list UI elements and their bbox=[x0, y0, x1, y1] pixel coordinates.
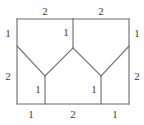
label-center-vertical: 1 bbox=[63, 27, 69, 38]
diagonal-upper-right bbox=[101, 46, 129, 76]
label-top-right: 2 bbox=[98, 6, 104, 17]
label-bottom-right: 1 bbox=[112, 109, 118, 120]
segment-group bbox=[17, 19, 129, 104]
figure-canvas bbox=[0, 0, 144, 125]
label-left-lower: 2 bbox=[5, 71, 11, 82]
diagonal-upper-left bbox=[17, 46, 45, 76]
label-left-upper: 1 bbox=[5, 28, 11, 39]
label-bottom-left: 1 bbox=[28, 109, 34, 120]
label-right-vertical: 1 bbox=[91, 84, 97, 95]
label-right-lower: 2 bbox=[134, 71, 140, 82]
diagonal-inner-left bbox=[45, 48, 73, 76]
diagonal-inner-right bbox=[73, 48, 101, 76]
label-top-left: 2 bbox=[42, 6, 48, 17]
label-bottom-middle: 2 bbox=[70, 109, 76, 120]
label-left-vertical: 1 bbox=[35, 84, 41, 95]
label-right-upper: 1 bbox=[134, 28, 140, 39]
dissection-figure: 221212111121 bbox=[0, 0, 144, 125]
